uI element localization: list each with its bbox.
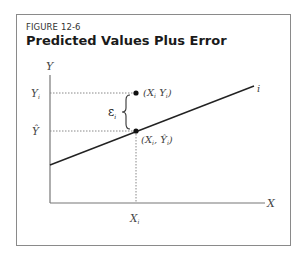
x-axis-label: X (266, 197, 276, 210)
actual-point-label: (Xi Yi) (143, 87, 172, 99)
y-axis-label: Y (46, 60, 55, 73)
yhat-tick-label: Ŷ (32, 124, 40, 137)
predicted-point (133, 128, 138, 133)
brace-icon (122, 95, 130, 129)
predicted-point-label: (Xi, Ŷi) (141, 134, 173, 146)
xi-tick-label: Xi (129, 212, 139, 225)
yi-tick-label: Yi (31, 87, 40, 100)
epsilon-label: εi (108, 105, 116, 120)
line-label: i (257, 83, 260, 94)
actual-point (133, 90, 138, 95)
regression-diagram: Y X i εi (Xi Yi) (Xi, Ŷi) Yi Ŷ Xi (0, 0, 306, 260)
